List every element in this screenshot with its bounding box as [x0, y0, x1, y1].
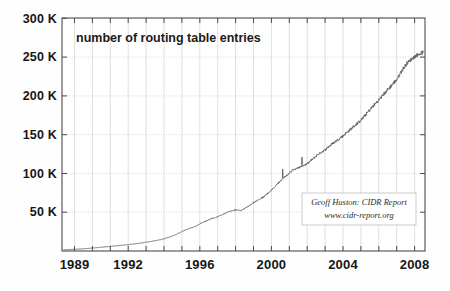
- chart-title: number of routing table entries: [76, 31, 261, 45]
- credit-line-url: www.cidr-report.org: [324, 210, 393, 220]
- x-tick-label: 2000: [257, 257, 287, 272]
- x-tick-label: 2008: [400, 257, 430, 272]
- x-axis-tick-labels: 1989 1992 1996 2000 2004 2008: [60, 257, 430, 272]
- credit-line-author: Geoff Huston: CIDR Report: [311, 197, 407, 207]
- x-tick-label: 2004: [328, 257, 358, 272]
- x-tick-label: 1996: [185, 257, 215, 272]
- y-tick-label: 50 K: [30, 205, 57, 219]
- routing-table-entries-chart: 300 K 250 K 200 K 150 K 100 K 50 K 1989 …: [0, 0, 450, 291]
- y-tick-label: 200 K: [23, 89, 57, 103]
- y-tick-label: 300 K: [23, 12, 57, 26]
- credit-box: Geoff Huston: CIDR Report www.cidr-repor…: [302, 193, 416, 225]
- x-tick-label: 1992: [113, 257, 143, 272]
- chart-figure: 300 K 250 K 200 K 150 K 100 K 50 K 1989 …: [0, 0, 450, 291]
- x-tick-label: 1989: [60, 257, 90, 272]
- y-axis-tick-labels: 300 K 250 K 200 K 150 K 100 K 50 K: [23, 12, 57, 220]
- y-tick-label: 250 K: [23, 50, 57, 64]
- y-tick-label: 100 K: [23, 167, 57, 181]
- y-tick-label: 150 K: [23, 128, 57, 142]
